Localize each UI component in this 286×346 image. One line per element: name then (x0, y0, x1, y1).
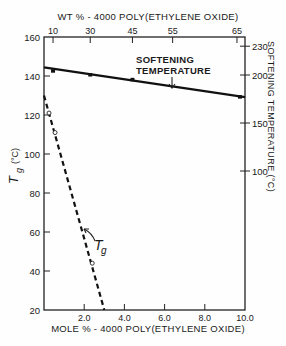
left-tick-label: 60 (29, 227, 40, 238)
series-tg (44, 96, 104, 311)
left-tick-label: 20 (29, 305, 40, 316)
top-tick-label: 45 (127, 26, 137, 36)
softening-annotation-line1: SOFTENING (136, 54, 194, 65)
left-axis: 20406080100120140160 (24, 32, 50, 316)
chart-svg: 20406080100120140160 100150200230 2.04.0… (0, 0, 286, 346)
bottom-tick-label: 2.0 (78, 313, 91, 323)
bottom-axis-title: MOLE % - 4000 POLY(ETHYLENE OXIDE) (51, 323, 245, 334)
bottom-axis: 2.04.06.08.010.0 (78, 304, 254, 323)
bottom-tick-label: 8.0 (199, 313, 212, 323)
plot-frame (44, 37, 245, 310)
left-tick-label: 140 (24, 71, 40, 82)
left-tick-label: 80 (29, 188, 40, 199)
svg-text:SOFTENING TEMPERATURE (°C): SOFTENING TEMPERATURE (°C) (266, 41, 276, 192)
bottom-tick-label: 4.0 (118, 313, 131, 323)
svg-text:(°C): (°C) (10, 148, 20, 164)
softening-annotation-line2: TEMPERATURE (136, 65, 211, 76)
data-point (90, 261, 94, 265)
right-tick-label: 150 (252, 118, 268, 129)
data-point (130, 78, 134, 82)
top-axis: 1030455565 (48, 26, 242, 43)
top-tick-label: 65 (232, 26, 242, 36)
top-tick-label: 30 (85, 26, 95, 36)
tg-annotation: T g (94, 237, 107, 256)
left-tick-label: 40 (29, 266, 40, 277)
chart-figure: 20406080100120140160 100150200230 2.04.0… (0, 0, 286, 346)
right-tick-label: 230 (252, 41, 268, 52)
data-point (238, 95, 242, 99)
svg-text:T: T (6, 175, 21, 184)
bottom-tick-label: 6.0 (158, 313, 171, 323)
data-point (51, 69, 55, 73)
svg-text:g: g (101, 245, 107, 256)
svg-text:g: g (14, 168, 24, 173)
right-axis: 100150200230 (240, 41, 268, 177)
right-tick-label: 200 (252, 70, 268, 81)
data-point (88, 73, 92, 77)
data-point (53, 131, 57, 135)
top-axis-title: WT % - 4000 POLY(ETHYLENE OXIDE) (58, 11, 239, 22)
left-tick-label: 100 (24, 149, 40, 160)
series-layer (44, 67, 245, 310)
left-axis-title: T g (°C) (6, 148, 24, 184)
data-point (47, 111, 51, 115)
top-tick-label: 55 (168, 26, 178, 36)
left-tick-label: 120 (24, 110, 40, 121)
top-tick-label: 10 (48, 26, 58, 36)
right-tick-label: 100 (252, 166, 268, 177)
right-axis-title: SOFTENING TEMPERATURE (°C) (266, 41, 276, 192)
bottom-tick-label: 10.0 (236, 313, 254, 323)
left-tick-label: 160 (24, 32, 40, 43)
